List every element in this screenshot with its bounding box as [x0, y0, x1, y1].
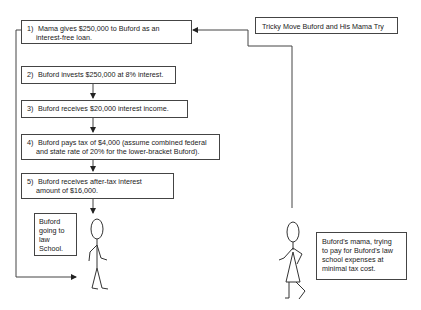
mama-caption-line: Buford's mama, trying [322, 237, 401, 246]
step-4-number: 4) [27, 138, 36, 147]
buford-caption-line: School. [39, 244, 72, 253]
step-1-number: 1) [27, 24, 36, 33]
step-3-number: 3) [27, 104, 36, 113]
title-text: Tricky Move Buford and His Mama Try [262, 22, 384, 31]
buford-caption-line: going to [39, 226, 72, 235]
step-4-text-line2: and state rate of 20% for the lower-brac… [27, 147, 214, 156]
step-5-text-line2: amount of $16,000. [27, 186, 168, 195]
step-1-text-line2: interest-free loan. [27, 33, 186, 42]
buford-caption: Buford going to law School. [34, 213, 77, 256]
buford-stick-figure [89, 219, 108, 289]
step-2-box: 2) Buford invests $250,000 at 8% interes… [21, 66, 176, 84]
step-5-text-line1: Buford receives after-tax interest [38, 177, 142, 186]
step-5-box: 5) Buford receives after-tax interest am… [21, 173, 174, 199]
step-3-text: Buford receives $20,000 interest income. [38, 104, 169, 113]
mama-caption: Buford's mama, trying to pay for Buford'… [316, 232, 407, 280]
mama-caption-line: to pay for Buford's law [322, 246, 401, 255]
step-1-box: 1) Mama gives $250,000 to Buford as an i… [21, 20, 192, 44]
step-2-text: Buford invests $250,000 at 8% interest. [38, 70, 163, 79]
buford-caption-line: law [39, 235, 72, 244]
mama-stick-figure [279, 222, 305, 299]
mama-to-step1-arrow [193, 30, 292, 208]
step-4-text-line1: Buford pays tax of $4,000 (assume combin… [38, 138, 207, 147]
mama-caption-line: minimal tax cost. [322, 264, 401, 273]
step-2-number: 2) [27, 70, 36, 79]
step-5-number: 5) [27, 177, 36, 186]
step-3-box: 3) Buford receives $20,000 interest inco… [21, 100, 188, 118]
step-4-box: 4) Buford pays tax of $4,000 (assume com… [21, 134, 220, 160]
step-1-text-line1: Mama gives $250,000 to Buford as an [38, 24, 159, 33]
diagram-title: Tricky Move Buford and His Mama Try [255, 17, 398, 34]
buford-caption-line: Buford [39, 217, 72, 226]
mama-caption-line: school expenses at [322, 255, 401, 264]
